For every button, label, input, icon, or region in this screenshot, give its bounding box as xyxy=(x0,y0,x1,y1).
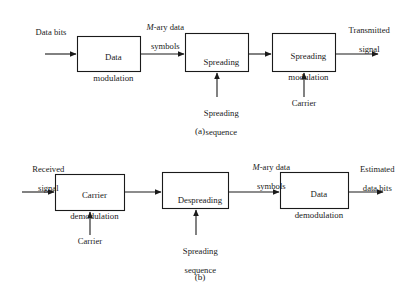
label-transmitted-line1: Transmitted xyxy=(349,25,390,35)
block-label-data-demodulation: Data demodulation xyxy=(280,179,349,230)
block-label-despreading: Despreading xyxy=(162,185,229,216)
label-estimated-data-bits: Estimated data bits xyxy=(345,155,401,203)
block-label-line2: modulation xyxy=(93,73,133,83)
block-label-line1: Spreading xyxy=(291,51,327,61)
label-data-bits: Data bits xyxy=(20,28,82,38)
block-label-line1: Spreading xyxy=(204,57,240,67)
block-label-line1: Data xyxy=(311,189,328,199)
label-mary-rest: -ary data xyxy=(154,22,184,32)
figure-block-diagram: Data bits Data modulation M-ary data sym… xyxy=(0,0,401,301)
label-mary-symbols: symbols xyxy=(151,41,180,51)
label-mary-italic-m: M xyxy=(147,22,154,32)
caption-panel-a: (a) xyxy=(175,126,225,136)
label-carrier-b: Carrier xyxy=(60,237,120,247)
label-mary-italic-m: M xyxy=(253,162,260,172)
label-spreading-sequence-a: Spreading sequence xyxy=(186,99,248,147)
block-label-carrier-demodulation: Carrier demodulation xyxy=(55,180,125,231)
block-label-line2: demodulation xyxy=(70,211,118,221)
label-carrier-a: Carrier xyxy=(274,99,334,109)
label-mary-rest: -ary data xyxy=(260,162,290,172)
block-label-line2: demodulation xyxy=(295,210,343,220)
label-estimated-line2: data bits xyxy=(363,183,392,193)
block-label-spreading-modulation: Spreading modulation xyxy=(272,41,336,92)
label-spreading-seq-line1: Spreading xyxy=(204,108,239,118)
label-transmitted-signal: Transmitted signal xyxy=(330,16,400,64)
block-label-line1: Carrier xyxy=(82,190,107,200)
label-transmitted-line2: signal xyxy=(359,44,380,54)
block-label-line1: Data xyxy=(105,52,122,62)
label-received-line1: Received xyxy=(32,164,64,174)
block-label-line1: Despreading xyxy=(178,195,222,205)
label-spreading-seq-line1: Spreading xyxy=(183,246,218,256)
label-estimated-line1: Estimated xyxy=(360,164,394,174)
block-label-spreading: Spreading xyxy=(185,47,249,78)
block-label-line2: modulation xyxy=(288,72,328,82)
caption-panel-b: (b) xyxy=(175,272,225,282)
